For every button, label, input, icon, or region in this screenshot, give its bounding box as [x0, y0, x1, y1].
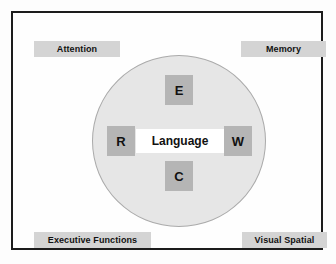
- center-label-language: Language: [136, 129, 224, 153]
- domain-label-executive-functions: Executive Functions: [34, 232, 151, 248]
- letter-tile-e: E: [165, 75, 193, 105]
- letter-tile-w: W: [224, 126, 252, 156]
- domain-label-visual-spatial: Visual Spatial: [242, 232, 327, 248]
- diagram-frame: Attention Memory Executive Functions Vis…: [11, 11, 323, 250]
- letter-tile-c: C: [165, 161, 193, 191]
- letter-tile-r: R: [107, 126, 135, 156]
- cognitive-domains-diagram: Attention Memory Executive Functions Vis…: [0, 0, 336, 264]
- domain-label-memory: Memory: [241, 41, 326, 57]
- domain-label-attention: Attention: [34, 41, 120, 57]
